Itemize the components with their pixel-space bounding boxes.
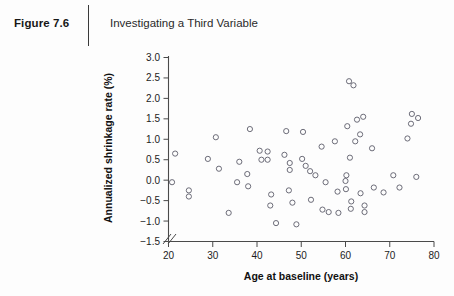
data-point [294,222,299,227]
data-point [273,221,278,226]
axis-break-mark [163,234,176,244]
x-axis-ticks [169,242,435,248]
plot-canvas: −1.5−1.0−0.50.00.51.01.52.02.53.0 203040… [0,48,454,296]
data-point [205,156,210,161]
data-point [173,151,178,156]
y-tick-label: 2.0 [146,93,160,104]
data-point [361,114,366,119]
data-point [346,79,351,84]
data-point [358,132,363,137]
y-tick-label: 0.5 [146,154,160,165]
data-point [391,173,396,178]
header-divider [88,5,89,46]
x-axis-tick-labels: 20304050607080 [163,250,440,261]
data-point [169,180,174,185]
figure-page: Figure 7.6 Investigating a Third Variabl… [0,0,454,296]
data-point [335,189,340,194]
data-point [308,197,313,202]
figure-header: Figure 7.6 Investigating a Third Variabl… [0,0,454,48]
y-tick-label: 0.0 [146,175,160,186]
y-axis-ticks [164,58,169,242]
data-point [409,111,414,116]
data-point [300,129,305,134]
y-tick-label: 3.0 [146,52,160,63]
x-tick-label: 50 [296,250,308,261]
data-point [290,200,295,205]
data-point [323,180,328,185]
data-point [269,192,274,197]
data-point [303,163,308,168]
data-point [397,185,402,190]
y-axis-title: Annualized shrinkage rate (%) [102,73,114,223]
data-point [381,190,386,195]
data-point [362,203,367,208]
y-tick-label: 2.5 [146,72,160,83]
data-point [259,157,264,162]
data-point [308,169,313,174]
data-point [332,139,337,144]
data-point [265,149,270,154]
data-point [336,210,341,215]
data-point [265,157,270,162]
scatter-plot: −1.5−1.0−0.50.00.51.01.52.02.53.0 203040… [0,48,454,296]
x-tick-label: 70 [384,250,396,261]
y-tick-label: 1.0 [146,134,160,145]
data-point [237,159,242,164]
data-point [362,209,367,214]
data-point [226,210,231,215]
data-point [287,160,292,165]
x-tick-label: 20 [163,250,175,261]
data-point [371,185,376,190]
data-point [358,191,363,196]
x-tick-label: 40 [251,250,263,261]
data-point [216,166,221,171]
data-point [300,156,305,161]
data-point [348,206,353,211]
data-point [213,135,218,140]
data-point-group [169,79,420,227]
x-tick-label: 60 [340,250,352,261]
y-axis: −1.5−1.0−0.50.00.51.01.52.02.53.0 [140,52,168,247]
x-tick-label: 80 [428,250,440,261]
y-tick-label: −1.0 [140,216,160,227]
data-point [186,194,191,199]
x-tick-label: 30 [207,250,219,261]
y-axis-tick-labels: −1.5−1.0−0.50.00.51.01.52.02.53.0 [140,52,160,247]
data-point [408,121,413,126]
data-point [405,136,410,141]
y-tick-label: −1.5 [140,236,160,247]
data-point [343,178,348,183]
figure-number-label: Figure 7.6 [14,17,69,29]
data-point [351,83,356,88]
data-point [349,199,354,204]
data-point [415,115,420,120]
data-point [414,174,419,179]
data-point [313,173,318,178]
data-point [343,187,348,192]
data-point [282,152,287,157]
y-tick-label: 1.5 [146,113,160,124]
data-point [186,188,191,193]
data-point [245,171,250,176]
y-tick-label: −0.5 [140,195,160,206]
data-point [347,155,352,160]
figure-title: Investigating a Third Variable [110,17,258,29]
data-point [247,126,252,131]
data-point [257,148,262,153]
data-point [344,173,349,178]
data-point [369,146,374,151]
data-point [284,129,289,134]
data-point [234,180,239,185]
data-point [246,184,251,189]
data-point [320,207,325,212]
x-axis-title: Age at baseline (years) [244,270,358,282]
data-point [286,188,291,193]
data-point [354,117,359,122]
data-point [353,139,358,144]
data-point [326,209,331,214]
data-point [345,124,350,129]
data-point [319,144,324,149]
data-point [268,203,273,208]
x-axis: 20304050607080 [163,242,440,262]
data-point [287,167,292,172]
